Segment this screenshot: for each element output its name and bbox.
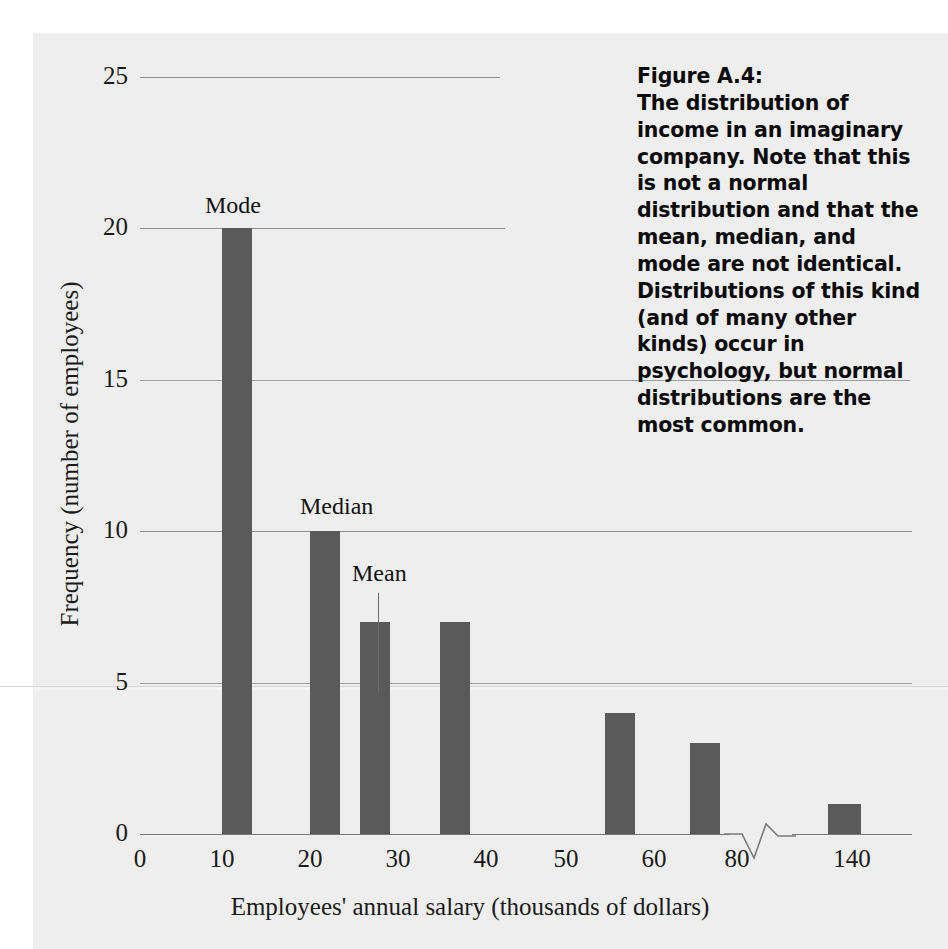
bar-60k — [605, 713, 635, 834]
y-axis-title: Frequency (number of employees) — [56, 244, 84, 664]
annotation-median: Median — [300, 493, 373, 520]
x-tick-label-40: 40 — [451, 845, 521, 873]
x-tick-label-60: 60 — [619, 845, 689, 873]
bar-10k — [222, 228, 252, 834]
bar-20k — [310, 531, 340, 834]
x-tick-label-50: 50 — [531, 845, 601, 873]
figure-page: 25 20 15 10 5 0 0 10 20 30 40 50 60 80 1… — [0, 0, 948, 949]
x-tick-label-80: 80 — [702, 845, 772, 873]
figure-caption: Figure A.4: The distribution of income i… — [637, 63, 923, 439]
bar-80k — [690, 743, 720, 834]
figure-caption-title: Figure A.4: — [637, 63, 923, 90]
gridline-5 — [140, 683, 912, 684]
x-tick-label-140: 140 — [817, 845, 887, 873]
x-axis-right-segment — [792, 834, 912, 835]
annotation-mode: Mode — [205, 192, 261, 219]
x-tick-label-0: 0 — [105, 845, 175, 873]
annotation-mean-pointer-line — [378, 593, 379, 693]
y-tick-label-25: 25 — [68, 62, 128, 90]
gridline-10 — [140, 531, 912, 532]
x-tick-label-10: 10 — [187, 845, 257, 873]
x-tick-label-20: 20 — [275, 845, 345, 873]
gridline-20 — [140, 228, 505, 229]
y-tick-label-20: 20 — [68, 213, 128, 241]
gridline-25 — [140, 77, 500, 78]
bar-40k — [440, 622, 470, 834]
bar-30k — [360, 622, 390, 834]
bar-140k — [828, 804, 861, 834]
annotation-mean: Mean — [352, 560, 407, 587]
y-tick-label-5: 5 — [68, 668, 128, 696]
x-axis-title: Employees' annual salary (thousands of d… — [90, 893, 850, 921]
x-tick-label-30: 30 — [363, 845, 433, 873]
y-tick-label-0: 0 — [68, 819, 128, 847]
figure-caption-body: The distribution of income in an imagina… — [637, 90, 923, 439]
x-axis-left-segment — [140, 834, 730, 835]
